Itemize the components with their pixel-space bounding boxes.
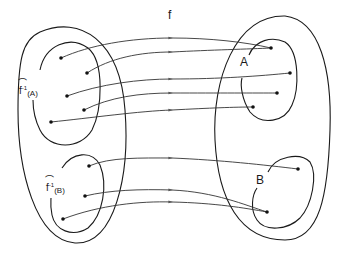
subset-b-label: B [256, 174, 264, 186]
preimage-a-outline [33, 42, 100, 145]
preimage-b-label: ⌒f-1(B) [46, 183, 65, 193]
preimage-a-label: ⌒f-1(A) [19, 86, 38, 96]
subset-a-label: A [240, 56, 248, 68]
function-label: f [168, 9, 171, 21]
diagram-canvas: f A B ⌒f-1(A) ⌒f-1(B) [0, 0, 345, 257]
domain-set-outline [18, 27, 126, 243]
subset-a-outline [241, 39, 297, 120]
mapping-diagram [0, 0, 345, 257]
